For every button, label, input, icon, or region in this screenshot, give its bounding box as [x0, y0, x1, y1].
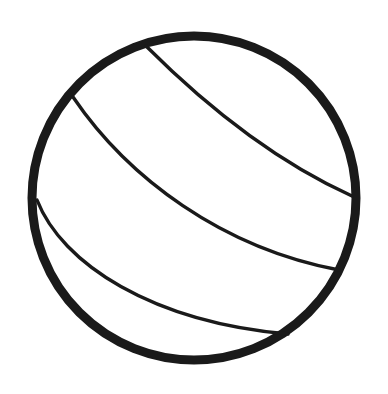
volleyball-illustration: Volleyball — [0, 0, 388, 394]
background-rect — [0, 0, 388, 394]
image-canvas: Volleyball — [0, 0, 388, 394]
